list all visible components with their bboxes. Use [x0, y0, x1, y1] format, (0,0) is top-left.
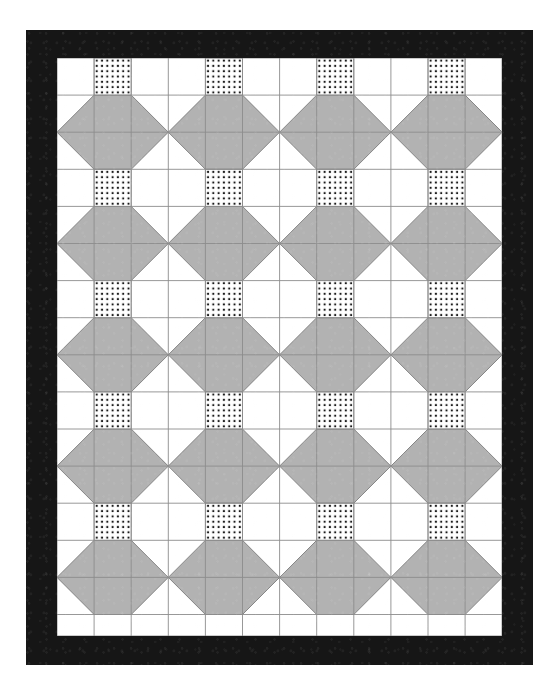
- dotted-square-patch: [317, 58, 354, 95]
- quilt-pattern-svg: [57, 58, 502, 636]
- dotted-square-patch: [205, 503, 242, 540]
- dotted-square-patch: [428, 503, 465, 540]
- quilt-page: Quilt Pattern: [0, 0, 558, 698]
- dotted-square-patch: [428, 392, 465, 429]
- dotted-square-patch: [205, 58, 242, 95]
- dotted-square-patch: [94, 58, 131, 95]
- dotted-square-patch: [94, 281, 131, 318]
- dotted-square-patch: [317, 281, 354, 318]
- outer-black-border: [26, 30, 533, 665]
- dotted-square-patch: [428, 281, 465, 318]
- dotted-square-patch: [94, 392, 131, 429]
- dotted-square-patch: [94, 503, 131, 540]
- dotted-square-patch: [317, 503, 354, 540]
- dotted-square-patch: [317, 392, 354, 429]
- dotted-square-patch: [94, 169, 131, 206]
- dotted-square-patch: [205, 169, 242, 206]
- pieced-quilt-field: [57, 58, 502, 636]
- dotted-square-patch: [205, 281, 242, 318]
- dotted-square-patch: [428, 169, 465, 206]
- dotted-square-patch: [205, 392, 242, 429]
- dotted-square-patch: [428, 58, 465, 95]
- dotted-square-patch: [317, 169, 354, 206]
